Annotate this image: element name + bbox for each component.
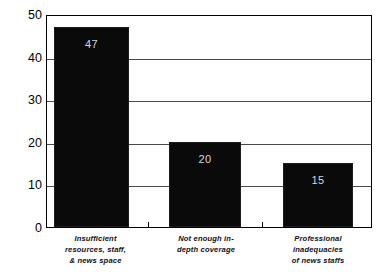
x-axis-label-line: & news space <box>43 255 148 266</box>
y-axis-tick-20: 20 <box>8 137 42 150</box>
x-axis-label-line: Insufficient <box>43 233 148 244</box>
bar-insufficient-resources[interactable]: 47 <box>54 27 129 227</box>
bar-value-label: 20 <box>170 154 240 165</box>
x-axis-label-line: inadequacies <box>268 244 368 255</box>
x-axis-label-line: resources, staff, <box>43 244 148 255</box>
x-axis-tick-1 <box>148 222 149 227</box>
bar-chart: 50 40 30 20 10 0 47 20 15 Insufficient r… <box>0 0 385 277</box>
x-axis-label-not-enough-indepth-coverage: Not enough in- depth coverage <box>156 233 256 255</box>
plot-area: 47 20 15 <box>46 15 372 228</box>
x-axis-label-insufficient-resources: Insufficient resources, staff, & news sp… <box>43 233 148 266</box>
y-axis-tick-40: 40 <box>8 51 42 64</box>
bar-value-label: 47 <box>55 39 128 50</box>
x-axis-label-line: Professional <box>268 233 368 244</box>
bar-not-enough-indepth-coverage[interactable]: 20 <box>169 142 241 227</box>
y-axis-tick-50: 50 <box>8 9 42 22</box>
x-axis-label-line: depth coverage <box>156 244 256 255</box>
bar-value-label: 15 <box>284 175 352 186</box>
y-axis-tick-10: 10 <box>8 179 42 192</box>
x-axis-tick-2 <box>262 222 263 227</box>
x-axis-label-professional-inadequacies: Professional inadequacies of news staffs <box>268 233 368 266</box>
x-axis-label-line: of news staffs <box>268 255 368 266</box>
bar-professional-inadequacies[interactable]: 15 <box>283 163 353 227</box>
y-axis-tick-30: 30 <box>8 94 42 107</box>
x-axis-label-line: Not enough in- <box>156 233 256 244</box>
y-axis-tick-0: 0 <box>8 222 42 235</box>
